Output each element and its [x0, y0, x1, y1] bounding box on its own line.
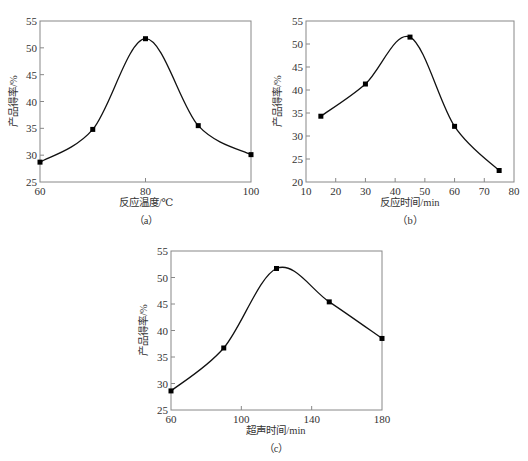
data-point-marker: [452, 124, 457, 129]
x-tick-label: 60: [449, 185, 461, 197]
x-tick-label: 80: [509, 185, 521, 197]
line-chart-c: 2530354045505560100140180 产品得率/% 超声时间/mi…: [130, 230, 400, 461]
x-tick-label: 50: [419, 185, 431, 197]
y-tick-label: 30: [292, 130, 304, 142]
x-tick-label: 10: [301, 185, 313, 197]
x-tick-label: 60: [166, 413, 178, 425]
x-axis-label-a: 反应温度/℃: [119, 196, 174, 208]
x-tick-label: 180: [374, 413, 391, 425]
plot-frame: [306, 21, 514, 182]
data-point-marker: [497, 168, 502, 173]
data-curve: [321, 36, 499, 170]
y-tick-label: 50: [26, 42, 38, 54]
x-tick-label: 30: [360, 185, 372, 197]
data-point-marker: [363, 82, 368, 87]
data-curve: [40, 39, 251, 162]
y-tick-label: 40: [26, 96, 38, 108]
y-tick-label: 45: [26, 69, 38, 81]
x-tick-label: 40: [390, 185, 402, 197]
data-point-marker: [274, 266, 279, 271]
x-tick-label: 60: [35, 185, 47, 197]
data-point-marker: [143, 36, 148, 41]
data-point-marker: [318, 114, 323, 119]
y-tick-label: 45: [157, 298, 169, 310]
data-point-marker: [380, 336, 385, 341]
y-axis-label-c: 产品得率/%: [137, 304, 149, 356]
x-tick-label: 80: [140, 185, 152, 197]
x-axis-label-c: 超声时间/min: [246, 424, 306, 436]
plot-area-a: 253035404550556080100: [26, 15, 260, 197]
data-curve: [171, 267, 382, 391]
y-tick-label: 30: [157, 378, 169, 390]
y-tick-label: 30: [26, 149, 38, 161]
data-point-marker: [90, 127, 95, 132]
y-tick-label: 35: [157, 351, 169, 363]
chart-panel-a: 253035404550556080100 产品得率/% 反应温度/℃ （a）: [0, 0, 264, 230]
data-point-marker: [221, 345, 226, 350]
data-point-marker: [169, 388, 174, 393]
chart-panel-c: 2530354045505560100140180 产品得率/% 超声时间/mi…: [130, 230, 400, 461]
x-axis-label-b: 反应时间/min: [380, 196, 440, 208]
plot-frame: [171, 251, 382, 410]
data-point-marker: [249, 152, 254, 157]
y-tick-label: 55: [26, 15, 38, 27]
data-point-marker: [408, 35, 413, 40]
y-tick-label: 55: [157, 245, 169, 257]
x-tick-label: 20: [330, 185, 342, 197]
data-point-marker: [327, 299, 332, 304]
y-tick-label: 50: [157, 272, 169, 284]
y-tick-label: 35: [26, 122, 38, 134]
x-tick-label: 100: [243, 185, 260, 197]
y-tick-label: 40: [292, 84, 304, 96]
data-point-marker: [196, 123, 201, 128]
caption-c: （c）: [264, 443, 289, 454]
chart-panel-b: 20253035404550551020304050607080 产品得率/% …: [264, 0, 528, 230]
y-tick-label: 45: [292, 61, 304, 73]
y-tick-label: 25: [292, 153, 304, 165]
caption-b: （b）: [397, 215, 422, 226]
y-tick-label: 50: [292, 38, 304, 50]
caption-a: （a）: [134, 215, 159, 226]
y-axis-label-a: 产品得率/%: [7, 75, 19, 127]
x-tick-label: 100: [233, 413, 250, 425]
data-point-marker: [38, 160, 43, 165]
x-tick-label: 70: [479, 185, 491, 197]
line-chart-a: 253035404550556080100 产品得率/% 反应温度/℃ （a）: [0, 0, 264, 230]
y-tick-label: 40: [157, 325, 169, 337]
line-chart-b: 20253035404550551020304050607080 产品得率/% …: [264, 0, 528, 230]
plot-area-b: 20253035404550551020304050607080: [292, 15, 520, 197]
y-tick-label: 55: [292, 15, 304, 27]
x-tick-label: 140: [303, 413, 320, 425]
plot-area-c: 2530354045505560100140180: [157, 245, 391, 425]
y-axis-label-b: 产品得率/%: [271, 75, 283, 127]
plot-frame: [40, 21, 251, 182]
y-tick-label: 35: [292, 107, 304, 119]
